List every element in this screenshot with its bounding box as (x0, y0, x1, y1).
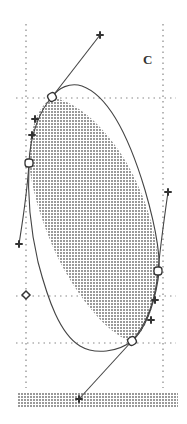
figure-label: C (143, 52, 152, 67)
cross-icon[interactable] (165, 189, 171, 195)
bezier-diagram: C (0, 0, 187, 424)
shaded-region (29, 98, 159, 341)
top-handle-line (52, 35, 100, 97)
anchor-square-icon[interactable] (25, 159, 33, 167)
anchor-square-icon[interactable] (154, 267, 162, 275)
cross-icon[interactable] (16, 241, 22, 247)
baseline-bar (17, 392, 178, 407)
diamond-icon[interactable] (22, 291, 30, 299)
cross-icon[interactable] (148, 317, 154, 323)
